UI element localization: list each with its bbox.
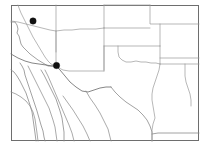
map-figure xyxy=(0,0,212,153)
locality-marker-2[interactable] xyxy=(53,62,59,68)
map-canvas xyxy=(0,0,212,153)
locality-marker-1[interactable] xyxy=(30,18,36,24)
